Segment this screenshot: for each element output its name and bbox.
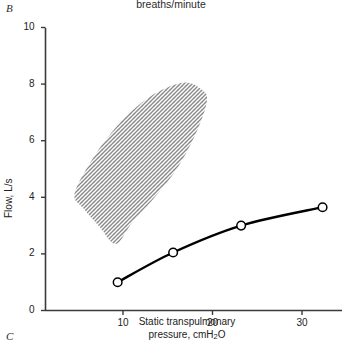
figure-panel: breaths/minute B C Flow, L/s: [0, 0, 342, 347]
data-point-marker: [113, 278, 122, 287]
data-series: [113, 203, 327, 287]
y-tick-label: 4: [13, 191, 35, 202]
data-point-marker: [318, 203, 327, 212]
y-tick-label: 0: [13, 304, 35, 315]
data-point-marker: [169, 248, 178, 257]
plot-area: [0, 0, 342, 347]
y-tick-label: 8: [13, 78, 35, 89]
flow-curve: [118, 207, 323, 282]
x-tick-label: 30: [289, 317, 315, 328]
x-axis-title: Static transpulmonary pressure, cmH2O: [62, 316, 312, 343]
x-axis-title-line2: pressure, cmH: [149, 329, 214, 340]
y-tick-label: 10: [13, 21, 35, 32]
data-point-marker: [237, 221, 246, 230]
data-point-markers: [113, 203, 327, 287]
x-axis-title-tail: O: [218, 329, 226, 340]
hatched-band: [74, 83, 207, 244]
x-tick-label: 20: [200, 317, 226, 328]
x-tick-label: 10: [110, 317, 136, 328]
y-tick-label: 6: [13, 134, 35, 145]
y-tick-label: 2: [13, 247, 35, 258]
